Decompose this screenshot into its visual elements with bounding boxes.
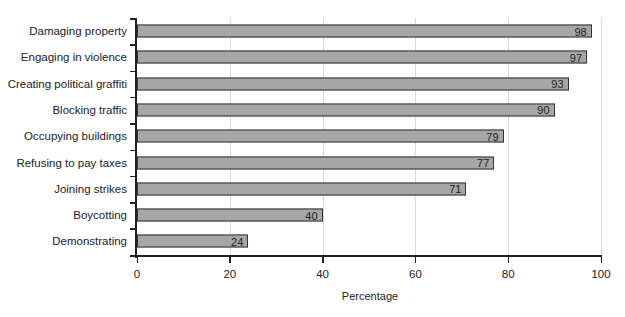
y-tick (130, 97, 136, 99)
x-tick (508, 256, 510, 263)
bar-value-label: 79 (486, 130, 498, 142)
x-axis-line (130, 255, 602, 257)
x-axis-label: Percentage (342, 290, 398, 302)
x-tick-label: 0 (134, 268, 140, 280)
bar-value-label: 97 (570, 51, 582, 63)
bar: 97 (137, 51, 587, 64)
x-tick-label: 100 (591, 268, 610, 280)
gridline (601, 18, 602, 256)
x-tick-label: 80 (502, 268, 515, 280)
y-tick (130, 123, 136, 125)
x-tick-label: 60 (409, 268, 422, 280)
y-tick (130, 18, 136, 20)
bar-value-label: 24 (231, 235, 243, 247)
x-tick (415, 256, 417, 263)
bar: 71 (137, 182, 466, 195)
category-label: Blocking traffic (52, 104, 127, 116)
x-tick (322, 256, 324, 263)
y-tick (130, 202, 136, 204)
y-tick (130, 255, 136, 257)
category-label: Occupying buildings (24, 130, 127, 142)
category-label: Joining strikes (54, 183, 127, 195)
y-tick (130, 71, 136, 73)
category-label: Engaging in violence (21, 51, 127, 63)
bar-value-label: 90 (537, 104, 549, 116)
category-label: Demonstrating (52, 235, 127, 247)
category-label: Refusing to pay taxes (16, 157, 127, 169)
category-label: Creating political graffiti (8, 78, 127, 90)
y-tick (130, 228, 136, 230)
y-tick (130, 44, 136, 46)
bar-value-label: 98 (574, 25, 586, 37)
bar: 93 (137, 77, 569, 90)
bar: 79 (137, 130, 504, 143)
bar-value-label: 71 (449, 183, 461, 195)
y-tick (130, 176, 136, 178)
x-tick (229, 256, 231, 263)
x-tick-label: 20 (223, 268, 236, 280)
horizontal-bar-chart: Damaging propertyEngaging in violenceCre… (0, 0, 625, 317)
category-label: Damaging property (29, 25, 127, 37)
bar: 40 (137, 209, 323, 222)
bar: 24 (137, 235, 248, 248)
y-tick (130, 150, 136, 152)
bar-value-label: 40 (305, 209, 317, 221)
bar: 77 (137, 156, 494, 169)
bar-value-label: 93 (551, 78, 563, 90)
bar-value-label: 77 (477, 157, 489, 169)
bar: 98 (137, 25, 592, 38)
x-tick-label: 40 (316, 268, 329, 280)
x-tick (137, 256, 139, 263)
x-tick (601, 256, 603, 263)
category-label: Boycotting (73, 209, 127, 221)
bar: 90 (137, 103, 555, 116)
